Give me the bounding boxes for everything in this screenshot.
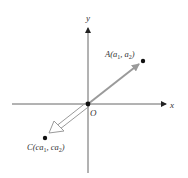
point-c-label: C(ca1, ca2) [27, 142, 65, 153]
x-axis-label: x [169, 100, 174, 110]
y-axis-label: y [85, 13, 90, 23]
origin-label: O [90, 108, 97, 118]
vector-c [49, 102, 90, 133]
vector-scaling-diagram: x y O A(a1, a2) C(ca1, ca2) [0, 0, 188, 178]
point-c [43, 136, 47, 140]
y-axis: y [85, 13, 90, 173]
point-a [141, 59, 145, 63]
point-a-label: A(a1, a2) [104, 49, 135, 60]
origin-point [86, 102, 91, 107]
vector-a [88, 64, 139, 104]
